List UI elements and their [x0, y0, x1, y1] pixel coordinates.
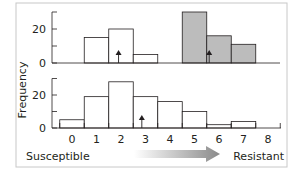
histogram-bar	[84, 97, 109, 128]
y-tick-label: 20	[32, 89, 46, 102]
histogram-bar	[207, 36, 232, 63]
x-tick-labels: 012345678	[69, 133, 272, 146]
x-tick-label: 2	[118, 133, 125, 146]
histogram-bar	[158, 102, 183, 128]
histogram-bar	[133, 97, 158, 128]
histogram-bar	[60, 120, 85, 128]
histogram-bar	[207, 125, 232, 128]
histogram-figure: 020 020 Frequency 012345678 Susceptible …	[0, 0, 301, 174]
chart-canvas: 020 020 Frequency 012345678 Susceptible …	[0, 0, 301, 174]
histogram-bar	[231, 44, 256, 63]
x-tick-label: 6	[216, 133, 223, 146]
histogram-bar	[109, 82, 134, 128]
histogram-bar	[182, 112, 207, 129]
histogram-bar	[109, 29, 134, 63]
x-tick-label: 1	[93, 133, 100, 146]
y-tick-label: 0	[39, 57, 46, 70]
x-tick-label: 3	[142, 133, 149, 146]
histogram-bar	[182, 12, 207, 63]
y-tick-label: 0	[39, 122, 46, 135]
y-tick-label: 20	[32, 23, 46, 36]
resistant-label: Resistant	[233, 150, 284, 163]
x-tick-label: 5	[191, 133, 198, 146]
x-tick-label: 0	[69, 133, 76, 146]
histogram-bar	[133, 55, 158, 64]
histogram-bar	[84, 38, 109, 64]
x-tick-label: 8	[265, 133, 272, 146]
x-tick-label: 4	[167, 133, 174, 146]
y-axis-label: Frequency	[16, 61, 29, 118]
susceptible-label: Susceptible	[26, 150, 90, 163]
x-tick-label: 7	[240, 133, 247, 146]
histogram-bar	[231, 121, 256, 128]
